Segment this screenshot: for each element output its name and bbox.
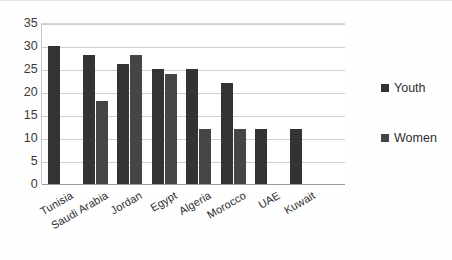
x-tick-label: Egypt [148, 189, 179, 214]
bar-youth-egypt [152, 69, 164, 184]
bar-women-morocco [234, 129, 246, 184]
x-tick-label: Kuwait [281, 189, 316, 216]
bar-women-algeria [199, 129, 211, 184]
legend-entry-women[interactable]: Women [381, 131, 451, 145]
x-tick-label: Jordan [108, 189, 144, 217]
bar-youth-algeria [186, 69, 198, 184]
bar-youth-morocco [221, 83, 233, 184]
bar-youth-kuwait [290, 129, 302, 184]
legend: YouthWomen [381, 81, 451, 181]
bars-layer [42, 24, 345, 184]
bar-youth-saudi-arabia [83, 55, 95, 184]
y-tick-label: 15 [24, 108, 38, 122]
plot-area [41, 23, 345, 184]
y-tick-label: 30 [24, 39, 38, 53]
legend-label: Youth [394, 81, 426, 95]
bar-women-egypt [165, 74, 177, 184]
y-tick-label: 10 [24, 131, 38, 145]
legend-swatch-icon [381, 134, 389, 142]
y-tick-label: 35 [24, 16, 38, 30]
y-tick-label: 20 [24, 85, 38, 99]
x-tick-label: Morocco [204, 189, 247, 221]
y-tick-label: 5 [31, 154, 38, 168]
y-axis: 35302520151050 [12, 23, 38, 184]
bar-chart: 35302520151050 TunisiaSaudi ArabiaJordan… [0, 0, 452, 260]
bar-youth-jordan [117, 64, 129, 184]
y-tick-label: 0 [31, 177, 38, 191]
x-axis: TunisiaSaudi ArabiaJordanEgyptAlgeriaMor… [41, 185, 345, 255]
bar-youth-tunisia [48, 46, 60, 184]
bar-women-jordan [130, 55, 142, 184]
bar-women-saudi-arabia [96, 101, 108, 184]
x-tick-label: UAE [256, 189, 282, 211]
legend-label: Women [394, 131, 437, 145]
bar-youth-uae [255, 129, 267, 184]
y-tick-label: 25 [24, 62, 38, 76]
legend-swatch-icon [381, 84, 389, 92]
legend-entry-youth[interactable]: Youth [381, 81, 451, 95]
